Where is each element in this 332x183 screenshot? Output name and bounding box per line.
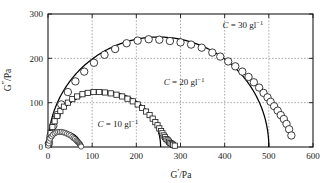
data-point [70,97,75,102]
data-point [101,51,108,58]
data-point [172,143,177,148]
data-point [166,37,173,44]
data-point [232,63,239,70]
data-point [72,78,79,85]
x-axis-title: G′/Pa [171,168,193,180]
data-point [90,59,97,66]
y-tick-label: 100 [30,98,44,108]
data-point [114,92,119,97]
data-point [52,119,57,124]
data-point [64,88,71,95]
data-point [217,53,224,60]
data-point [177,39,184,46]
data-point [80,92,85,97]
x-tick-label: 500 [262,151,276,161]
data-point [120,94,125,99]
data-point [102,90,107,95]
data-point [134,37,141,44]
data-point [123,40,130,47]
data-point [145,36,152,43]
y-tick-label: 300 [30,9,44,19]
data-point [130,99,135,104]
x-tick-label: 300 [174,151,188,161]
data-point [97,89,102,94]
data-point [85,90,90,95]
svg-text:G″/Pa: G″/Pa [1,68,13,91]
data-point [198,44,205,51]
data-point [288,132,295,139]
data-point [209,49,216,56]
data-point [50,124,55,129]
cole-cole-plot-figure: 01002003004005006000100200300 C = 30 gl−… [0,0,332,183]
data-point [81,68,88,75]
y-axis-title: G″/Pa [1,68,13,91]
data-point [108,91,113,96]
x-tick-label: 200 [130,151,144,161]
data-point [187,41,194,48]
svg-text:G′/Pa: G′/Pa [171,168,193,180]
x-tick-label: 0 [46,151,51,161]
x-tick-label: 400 [218,151,232,161]
chart-canvas: 01002003004005006000100200300 C = 30 gl−… [0,0,332,183]
data-point [225,58,232,65]
x-tick-label: 600 [306,151,320,161]
y-tick-label: 200 [30,54,44,64]
data-point [111,45,118,52]
data-point [125,96,130,101]
x-tick-label: 100 [85,151,99,161]
data-point [239,68,246,75]
data-point [156,36,163,43]
data-point [75,94,80,99]
data-point [55,113,60,118]
data-point [91,89,96,94]
data-point [79,144,84,149]
y-tick-label: 0 [39,142,44,152]
